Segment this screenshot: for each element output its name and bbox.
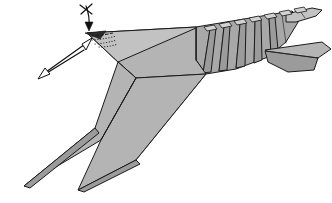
abdomen-segment-shade-4 <box>254 20 262 63</box>
origami-illustration <box>0 0 332 203</box>
origami-diagram-canvas <box>0 0 332 203</box>
